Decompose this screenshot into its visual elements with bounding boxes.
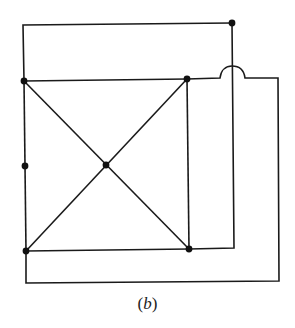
node-left-middle <box>22 163 29 170</box>
node-square-bottom-left <box>23 248 30 255</box>
node-top-right-outer <box>229 20 236 27</box>
node-square-top-left <box>21 78 28 85</box>
edge-square-bottom <box>26 249 189 251</box>
edge-square-right <box>187 79 189 249</box>
edge-outer-right-inner <box>189 23 234 249</box>
graph-diagram <box>0 0 295 328</box>
node-center <box>103 162 110 169</box>
edge-outer-top <box>23 23 232 81</box>
node-square-top-right <box>184 76 191 83</box>
figure-caption: (b) <box>0 294 295 314</box>
node-square-bottom-right <box>186 246 193 253</box>
edge-square-top <box>24 79 187 81</box>
